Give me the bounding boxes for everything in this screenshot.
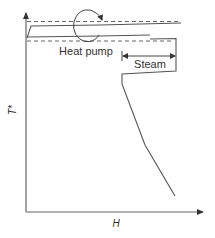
y-axis-label: T* xyxy=(7,104,18,115)
diagram-canvas: Heat pump Steam H T* xyxy=(0,0,215,238)
x-axis-label: H xyxy=(112,218,120,229)
heat-pump-label: Heat pump xyxy=(59,45,113,57)
steam-label: Steam xyxy=(134,58,166,70)
